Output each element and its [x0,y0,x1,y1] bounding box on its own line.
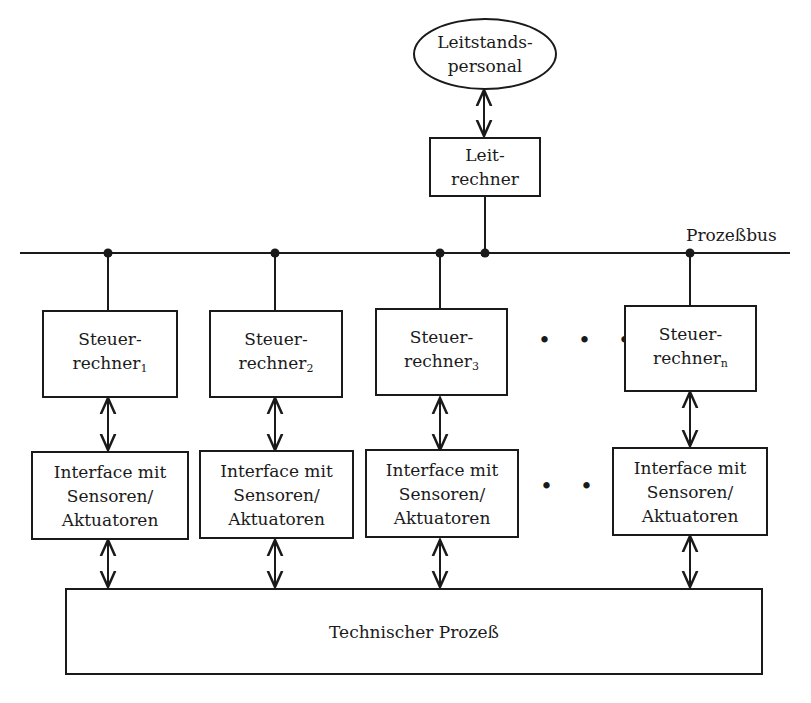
operator-label-line1: Leitstands- [437,30,533,54]
operator-label-line2: personal [448,54,523,78]
interface-box-1: Interface mit Sensoren/ Aktuatoren [31,451,189,540]
interface-label-line3: Aktuatoren [394,506,491,530]
controller-label-line1: Steuer- [78,327,141,351]
interface-label-line2: Sensoren/ [233,483,319,507]
controller-label-line2: rechner1 [73,351,148,381]
interface-label-line2: Sensoren/ [67,484,153,508]
operator-ellipse: Leitstands- personal [413,18,557,90]
technical-process-label: Technischer Prozeß [329,620,499,644]
interface-box-n: Interface mit Sensoren/ Aktuatoren [612,447,768,536]
technical-process-box: Technischer Prozeß [65,588,763,675]
interface-label-line3: Aktuatoren [642,504,739,528]
interface-box-2: Interface mit Sensoren/ Aktuatoren [199,450,354,539]
controller-box-2: Steuer- rechner2 [209,310,343,398]
interface-label-line2: Sensoren/ [647,480,733,504]
bus-label: Prozeßbus [686,225,777,245]
interface-label-line1: Interface mit [634,456,746,480]
controller-label-line2: rechnern [653,346,728,376]
controller-box-3: Steuer- rechner3 [375,308,508,396]
interface-box-3: Interface mit Sensoren/ Aktuatoren [365,449,519,538]
interface-label-line1: Interface mit [54,460,166,484]
controller-box-1: Steuer- rechner1 [42,310,178,398]
controller-label-line2: rechner2 [239,351,314,381]
controller-label-line1: Steuer- [659,322,722,346]
master-label-line1: Leit- [465,143,504,167]
interface-label-line3: Aktuatoren [62,508,159,532]
interface-label-line1: Interface mit [386,458,498,482]
controller-label-line2: rechner3 [404,349,479,379]
interface-label-line1: Interface mit [220,459,332,483]
interface-label-line3: Aktuatoren [228,507,325,531]
controller-label-line1: Steuer- [410,325,473,349]
master-computer-box: Leit- rechner [429,137,541,197]
controller-box-n: Steuer- rechnern [624,305,757,392]
interface-label-line2: Sensoren/ [399,482,485,506]
controller-label-line1: Steuer- [244,327,307,351]
master-label-line2: rechner [451,167,519,191]
